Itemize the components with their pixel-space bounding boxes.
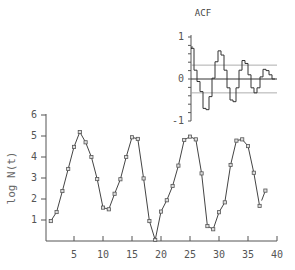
main-line-segment [120,157,126,179]
main-line-segment [115,179,121,193]
main-line-segment [62,169,68,191]
main-line-segment [225,165,231,202]
main-line-segment [57,191,63,212]
main-data-point [136,137,139,140]
main-data-point [194,138,197,141]
main-x-ticks: 510152025303540 [71,236,283,260]
main-y-tick-label: 4 [31,151,37,162]
main-data-point [113,192,116,195]
main-x-tick-label: 40 [271,249,283,260]
acf-y-tick-label: 0 [178,73,184,84]
main-y-tick-label: 2 [31,193,37,204]
main-data-point [130,136,133,139]
main-x-tick-label: 15 [126,249,138,260]
main-line-segment [167,186,173,200]
main-line-segment [126,137,132,157]
main-data-point [49,219,52,222]
main-data-point [61,189,64,192]
main-data-point [177,164,180,167]
acf-title: ACF [195,8,211,18]
main-line-segment [248,146,254,173]
main-x-tick-label: 25 [184,249,196,260]
main-data-point [188,135,191,138]
main-line-segment [138,139,144,178]
main-line-segment [213,212,219,229]
main-line-segment [202,173,208,226]
acf-y-ticks: 10-1 [172,31,191,126]
main-data-point [72,145,75,148]
main-line-segment [231,141,237,165]
main-data-point [101,206,104,209]
main-data-point [142,177,145,180]
main-data-point [252,171,255,174]
main-series [49,130,267,241]
main-data-point [223,201,226,204]
main-y-ticks: 123456 [31,109,46,225]
main-data-point [246,144,249,147]
main-data-point [125,155,128,158]
main-data-point [67,167,70,170]
main-line-segment [149,221,155,240]
main-data-point [264,189,267,192]
main-data-point [206,224,209,227]
main-chart: 123456 510152025303540 log N(t) [5,109,283,260]
main-y-axis-label: log N(t) [5,152,18,205]
main-data-point [78,130,81,133]
main-line-segment [254,173,260,206]
chart-canvas: 123456 510152025303540 log N(t) ACF 10-1 [0,0,295,270]
main-line-segment [91,157,97,179]
main-data-point [212,228,215,231]
main-line-segment [196,139,202,173]
acf-y-tick-label: -1 [172,115,184,126]
main-data-point [55,210,58,213]
main-x-tick-label: 5 [71,249,77,260]
main-data-point [171,184,174,187]
main-data-point [154,238,157,241]
main-line-segment [178,140,184,166]
main-line-segment [74,132,80,147]
main-line-segment [68,147,74,169]
main-data-point [229,163,232,166]
main-data-point [90,155,93,158]
acf-y-tick-label: 1 [178,31,184,42]
main-line-segment [109,194,115,210]
main-data-point [84,141,87,144]
main-y-tick-label: 5 [31,130,37,141]
main-data-point [183,138,186,141]
main-data-point [165,199,168,202]
main-data-point [96,177,99,180]
main-data-point [235,139,238,142]
main-line-segment [173,166,179,186]
main-y-tick-label: 6 [31,109,37,120]
main-x-tick-label: 30 [213,249,225,260]
main-line-segment [97,179,103,208]
main-data-point [241,138,244,141]
main-data-point [258,204,261,207]
main-data-point [107,208,110,211]
main-x-tick-label: 35 [242,249,254,260]
main-data-point [148,219,151,222]
acf-inset-chart: ACF 10-1 [172,8,277,126]
main-data-point [200,172,203,175]
acf-series [191,46,275,109]
main-data-point [119,178,122,181]
main-line-segment [155,212,161,240]
main-data-point [217,211,220,214]
main-x-tick-label: 20 [155,249,167,260]
main-y-tick-label: 1 [31,214,37,225]
main-x-tick-label: 10 [97,249,109,260]
main-data-point [159,210,162,213]
main-y-tick-label: 3 [31,172,37,183]
main-line-segment [86,142,92,157]
main-line-segment [144,178,150,221]
